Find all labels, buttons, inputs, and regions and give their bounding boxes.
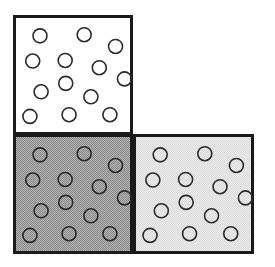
three-squares-diagram — [0, 0, 275, 267]
panel-bottom-right — [135, 136, 253, 253]
figure-container — [0, 0, 275, 267]
panel-bottom-left — [15, 136, 132, 253]
panel-top-left — [15, 17, 132, 134]
